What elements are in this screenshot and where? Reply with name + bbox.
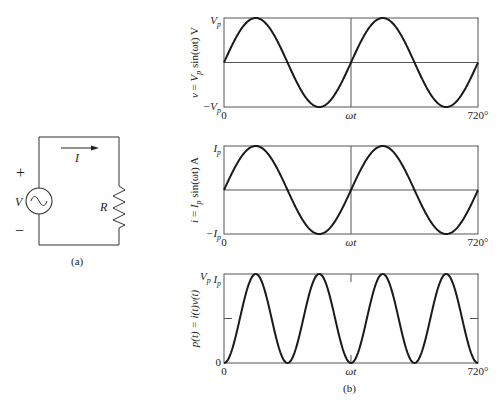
plot-3: Vp Ip00ωt720°p(t) = i(t)v(t) — [188, 270, 488, 377]
plot-frame — [224, 274, 478, 363]
current-label: I — [74, 151, 80, 165]
svg-text:Vp Ip: Vp Ip — [200, 270, 221, 288]
resistor-icon — [113, 186, 125, 228]
sine-wave-icon — [31, 197, 47, 206]
plot-1: Vp−Vp0ωt720°v = Vp sin(ωt) V — [188, 14, 488, 121]
x-tick: 720° — [468, 109, 489, 121]
y-axis-label: v = Vp sin(ωt) V — [188, 27, 203, 98]
x-axis-label: ωt — [346, 236, 358, 248]
x-tick: 720° — [468, 236, 489, 248]
x-tick: 0 — [221, 236, 227, 248]
svg-text:−Ip: −Ip — [206, 227, 221, 242]
arrow-head-icon — [91, 146, 99, 151]
svg-text:−Vp: −Vp — [203, 100, 221, 115]
resistor-label: R — [99, 200, 108, 214]
figure: + V − I R (a) Vp−Vp0ωt720°v = Vp sin(ωt)… — [0, 0, 501, 405]
svg-text:Vp: Vp — [210, 14, 221, 29]
figure-canvas: + V − I R (a) Vp−Vp0ωt720°v = Vp sin(ωt)… — [0, 0, 501, 405]
minus-sign: − — [15, 222, 24, 239]
waveform-plots: Vp−Vp0ωt720°v = Vp sin(ωt) VIp−Ip0ωt720°… — [188, 14, 488, 377]
plot-2: Ip−Ip0ωt720°i = Ip sin(ωt) A — [188, 142, 488, 248]
source-label: V — [15, 195, 24, 209]
x-tick: 0 — [221, 365, 227, 377]
figure-caption: (b) — [343, 382, 356, 395]
circuit-wire — [39, 214, 119, 245]
y-axis-label: p(t) = i(t)v(t) — [188, 289, 201, 348]
y-axis-label: i = Ip sin(ωt) A — [188, 157, 203, 223]
x-axis-label: ωt — [346, 365, 358, 377]
svg-text:Ip: Ip — [212, 142, 221, 157]
waveform-p — [224, 274, 478, 363]
x-tick: 0 — [221, 109, 227, 121]
x-tick: 720° — [468, 365, 489, 377]
circuit-caption: (a) — [71, 255, 84, 268]
x-axis-label: ωt — [346, 109, 358, 121]
circuit-wire — [39, 137, 119, 188]
plus-sign: + — [16, 164, 25, 181]
